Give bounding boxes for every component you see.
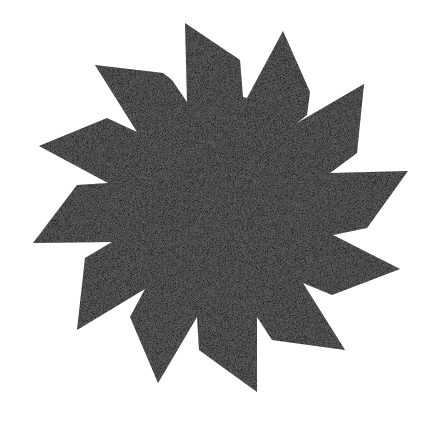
star-shape bbox=[33, 23, 408, 392]
pinwheel-star-icon bbox=[0, 0, 434, 424]
image-canvas: Twelve-pointed black pinwheel/sun star s… bbox=[0, 0, 434, 424]
